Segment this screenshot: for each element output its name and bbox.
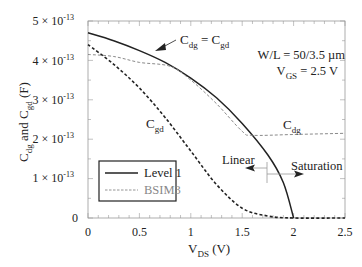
x-tick-labels: 0 0.5 1 1.5 2 2.5 [85,225,353,239]
ytick-0: 0 [72,211,78,225]
y-tick-labels: 0 1 × 10-13 2 × 10-13 3 × 10-13 4 × 10-1… [33,13,78,225]
ytick-1: 1 × 10-13 [33,170,74,185]
eq-arrow-head-icon [155,43,166,51]
wl-label: W/L = 50/3.5 µm [258,48,346,62]
xtick-4: 2 [291,225,297,239]
legend-level1-label: Level 1 [144,166,182,180]
y-axis-title: Cdg and Cgd (F) [16,82,34,162]
ytick-5: 5 × 10-13 [33,13,74,28]
xtick-2: 1 [188,225,194,239]
cdg-eq-cgd-label: Cdg = Cgd [180,32,230,50]
xtick-3: 1.5 [235,225,250,239]
cdg-label: Cdg [283,117,301,135]
xtick-0: 0 [85,225,91,239]
vgs-label: VGS = 2.5 V [277,64,338,81]
ytick-2: 2 × 10-13 [33,131,74,146]
saturation-label: Saturation [291,159,343,173]
xtick-5: 2.5 [338,225,353,239]
legend: Level 1 BSIM3 [99,161,182,201]
ytick-3: 3 × 10-13 [33,92,74,107]
linear-label: Linear [222,153,255,167]
cgd-label: Cgd [146,116,164,134]
x-axis-title: VDS (V) [188,241,230,259]
ytick-4: 4 × 10-13 [33,53,74,68]
capacitance-chart: 0 1 × 10-13 2 × 10-13 3 × 10-13 4 × 10-1… [0,0,362,267]
legend-bsim3-label: BSIM3 [144,183,181,197]
xtick-1: 0.5 [132,225,147,239]
